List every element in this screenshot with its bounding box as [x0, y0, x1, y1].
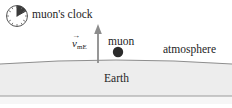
- vector-arrow-accent: →: [72, 32, 77, 40]
- earth-lower-fill: [0, 96, 232, 104]
- muon-label: muon: [108, 36, 134, 48]
- muon-particle-dot: [113, 47, 123, 57]
- arrow-head: [94, 24, 102, 34]
- muons-clock-label: muon's clock: [32, 9, 93, 21]
- up-arrow-icon: [94, 24, 102, 63]
- atmosphere-label: atmosphere: [163, 44, 216, 56]
- muon-time-dilation-figure: muon's clock muon atmosphere Earth → v m…: [0, 0, 232, 108]
- velocity-subscript: mE: [77, 43, 87, 51]
- earth-label: Earth: [104, 73, 129, 85]
- velocity-vector-label: → v mE: [72, 38, 87, 51]
- clock-icon: [7, 5, 28, 26]
- velocity-symbol-group: → v: [72, 38, 77, 49]
